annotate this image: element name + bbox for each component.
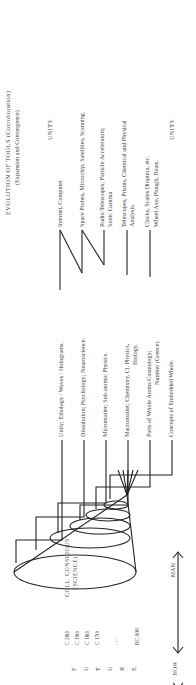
future-letter-u1: U — [82, 666, 89, 671]
future-letter-f: F — [70, 667, 77, 671]
science-level-parts-of-whole: Parts of Whole Atoms Cosmology; — [145, 350, 152, 437]
timeline-tick-c18: C 18th — [84, 630, 91, 645]
tool-item-clocks: Clocks, Scales Dioptera, etc. — [143, 156, 150, 227]
tool-item-telescopes: Telescopes, Prisms, Chemical and Physica… — [120, 120, 127, 227]
future-letter-u2: U — [106, 666, 113, 671]
tool-item-telescopes-line2: Analysis. — [128, 204, 135, 227]
science-level-macromatter: Macromatter; Chemistry, Cl. Physics, — [123, 344, 130, 437]
timeline-tick-c19: C 19th — [74, 630, 81, 645]
timeline-tick-c17: C 17th — [94, 630, 101, 645]
cone-top-label-line2: (SCIENCE) — [72, 556, 79, 589]
future-letter-r: R — [118, 666, 125, 671]
tool-item-radio-telescopes-line2: Sonic Gamma — [106, 192, 113, 227]
timeline-tick-bc600: BC 600 — [134, 628, 141, 645]
tool-item-radio-telescopes: Radio Telescopes; Particle Accelerators; — [98, 127, 105, 227]
science-level-unity: Unity; Ethology / Waves / Holograms. — [57, 342, 64, 437]
evolution-of-tools-diagram: EVOLUTION OF TOOLS (Corroboration) (Expa… — [0, 0, 196, 685]
timeline-tick-c20: C 20th — [64, 630, 71, 645]
tool-item-internet: Internet, Computer — [56, 180, 63, 227]
tool-item-wheel-axe: Wheel Axe, Plough, Boats. — [152, 160, 159, 227]
header-title: EVOLUTION OF TOOLS (Corroboration) — [4, 91, 11, 215]
header-subtitle: (Expansion and Convergence) — [13, 110, 20, 185]
science-level-micromatter: Micromatter; Sub-atomic Physics. — [101, 352, 108, 437]
future-letter-t: T — [94, 667, 101, 671]
diagram-lines — [0, 0, 196, 685]
cone-edge-bottom — [127, 495, 136, 572]
unity-bottom-label: UNITY — [168, 119, 175, 140]
science-level-parts-of-whole-line2: Number (Greece). — [153, 340, 160, 385]
science-level-macromatter-line2: Biology. — [131, 344, 138, 365]
science-level-dissolution: Dissolution; Psychology; Neuroscience. — [79, 338, 86, 437]
now-label: NOW — [172, 661, 179, 675]
cone-top-label: COLL. CONSCIOUS — [64, 538, 71, 597]
science-level-concepts: Concepts of Embedded Whole. — [167, 360, 174, 437]
unity-top-label: UNITY — [46, 119, 53, 140]
tool-item-space-probes: Space Probes, Microchip, Satellites, Sca… — [78, 112, 85, 227]
timeline-tick-ellipsis: . . . — [112, 638, 119, 645]
apex-man-label: MAN — [170, 563, 177, 577]
future-letter-e: E — [130, 667, 137, 671]
